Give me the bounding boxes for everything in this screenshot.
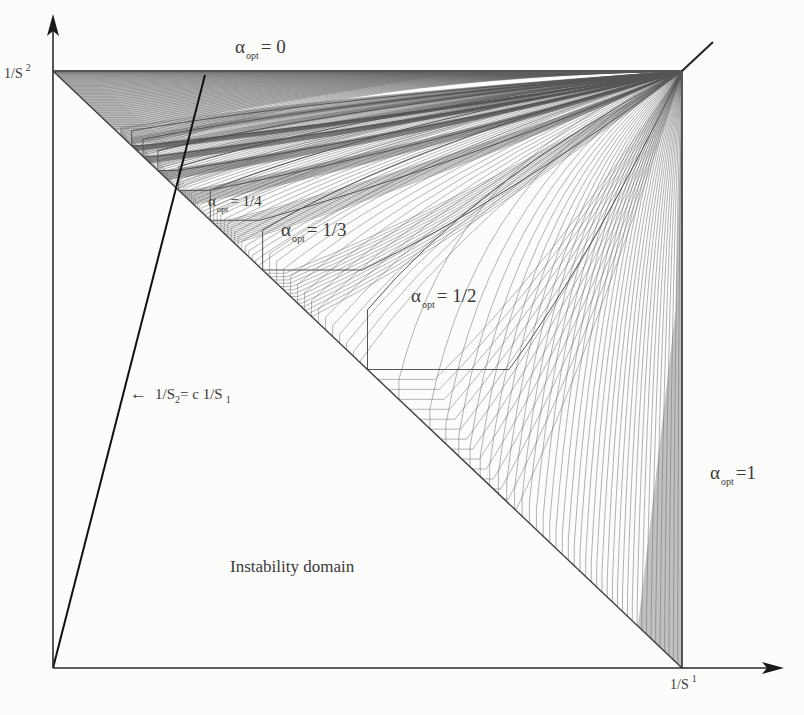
alpha-subscript: opt: [422, 299, 435, 310]
alpha-symbol: α: [411, 285, 421, 306]
y-axis-label-index: 2: [26, 62, 31, 73]
region-label-alpha-1-3: αopt= 1/3: [281, 219, 347, 241]
ray-annotation-rhs: = c 1/S: [180, 386, 223, 402]
contour-curves: [54, 71, 682, 664]
dense-shading: [638, 71, 682, 668]
x-axis-label-base: 1/S: [670, 677, 689, 692]
stability-diagram: 1/S2 1/S1 αopt= 0 αopt= 1/4 αopt= 1/3 αo…: [0, 0, 804, 715]
y-axis-label: 1/S2: [4, 66, 31, 82]
alpha-value: = 1/3: [307, 219, 347, 240]
alpha-value: =1: [736, 462, 756, 483]
diagram-canvas: [0, 0, 804, 715]
alpha-symbol: α: [235, 36, 245, 57]
left-arrow-icon: ←: [130, 384, 147, 403]
alpha-value: = 1/4: [230, 193, 261, 209]
ray-annotation: ←1/S2= c 1/S1: [130, 384, 231, 404]
region-label-alpha-1-4: αopt= 1/4: [208, 193, 262, 210]
alpha-symbol: α: [710, 462, 720, 483]
alpha-subscript: opt: [246, 50, 259, 61]
y-axis-label-base: 1/S: [4, 66, 23, 81]
alpha-symbol: α: [208, 193, 216, 209]
region-label-alpha-0: αopt= 0: [235, 36, 286, 58]
ray-annotation-lhs: 1/S: [155, 386, 175, 402]
region-label-alpha-1: αopt=1: [710, 462, 756, 484]
alpha-value: = 1/2: [437, 285, 477, 306]
proportional-line-ray: [53, 75, 205, 668]
ray-annotation-lhs-sub: 2: [175, 394, 180, 405]
alpha-subscript: opt: [217, 204, 229, 214]
x-axis-label-index: 1: [692, 673, 697, 684]
alpha-subscript: opt: [292, 233, 305, 244]
instability-domain-label: Instability domain: [230, 557, 354, 577]
alpha-symbol: α: [281, 219, 291, 240]
x-axis-label: 1/S1: [670, 677, 697, 693]
ray-annotation-rhs-sub: 1: [226, 394, 231, 405]
alpha-subscript: opt: [721, 476, 734, 487]
region-label-alpha-1-2: αopt= 1/2: [411, 285, 477, 307]
corner-tail-line: [682, 42, 713, 71]
alpha-value: = 0: [261, 36, 286, 57]
